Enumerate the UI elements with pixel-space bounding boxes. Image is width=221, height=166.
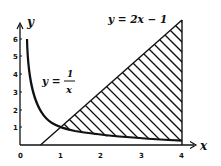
y-tick-2: 2 xyxy=(13,107,18,115)
svg-text:1: 1 xyxy=(67,69,73,79)
line-y-2x-minus-1 xyxy=(41,20,183,145)
x-tick-1: 1 xyxy=(58,152,63,160)
y-axis-label: y xyxy=(26,15,35,29)
y-tick-1: 1 xyxy=(13,124,18,132)
y-tick-4: 4 xyxy=(13,71,18,79)
curve-label: y = 1 x xyxy=(41,69,75,95)
y-tick-6: 6 xyxy=(13,36,18,44)
function-area-diagram: y x y = 2x − 1 y = 1 x 0 1 2 3 4 1 2 3 4… xyxy=(0,0,221,166)
svg-text:y =: y = xyxy=(41,75,61,87)
svg-text:x: x xyxy=(65,84,73,95)
x-tick-0: 0 xyxy=(18,152,23,160)
x-tick-4: 4 xyxy=(179,152,184,160)
y-tick-5: 5 xyxy=(13,53,18,61)
y-tick-3: 3 xyxy=(13,89,18,97)
x-tick-2: 2 xyxy=(98,152,103,160)
x-axis-label: x xyxy=(199,139,208,153)
x-tick-3: 3 xyxy=(139,152,144,160)
line-label: y = 2x − 1 xyxy=(107,13,167,25)
